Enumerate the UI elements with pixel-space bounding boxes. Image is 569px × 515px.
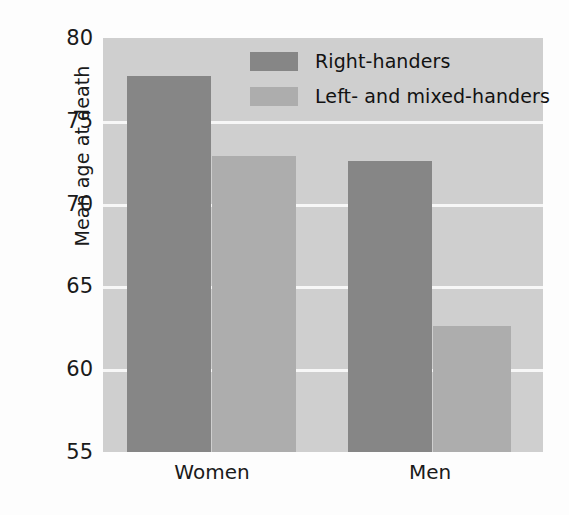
y-tick-55: 55: [15, 440, 103, 464]
bar-men-right-handers[interactable]: [348, 161, 432, 452]
x-tick-women: Women: [174, 460, 249, 484]
y-axis-tick-labels: 80 75 70 65 60 55: [0, 0, 103, 515]
legend-label-left-and-mixed-handers: Left- and mixed-handers: [315, 85, 550, 107]
bar-chart-figure: Mean age at death 80 75 70 65 60 55 Righ…: [0, 0, 569, 515]
legend: Right-handers Left- and mixed-handers: [250, 50, 550, 107]
plot-area: Right-handers Left- and mixed-handers: [103, 38, 543, 452]
bar-women-right-handers[interactable]: [127, 76, 211, 452]
legend-swatch-right-handers: [250, 52, 298, 71]
x-tick-men: Men: [409, 460, 451, 484]
legend-label-right-handers: Right-handers: [315, 50, 450, 72]
legend-swatch-left-and-mixed-handers: [250, 87, 298, 106]
legend-entry-right-handers[interactable]: Right-handers: [250, 50, 550, 72]
bar-men-left-and-mixed-handers[interactable]: [433, 326, 511, 452]
bar-women-left-and-mixed-handers[interactable]: [212, 156, 296, 452]
y-tick-80: 80: [15, 26, 103, 50]
y-tick-65: 65: [15, 274, 103, 298]
y-tick-75: 75: [15, 109, 103, 133]
y-tick-60: 60: [15, 357, 103, 381]
y-tick-70: 70: [15, 192, 103, 216]
legend-entry-left-and-mixed-handers[interactable]: Left- and mixed-handers: [250, 85, 550, 107]
